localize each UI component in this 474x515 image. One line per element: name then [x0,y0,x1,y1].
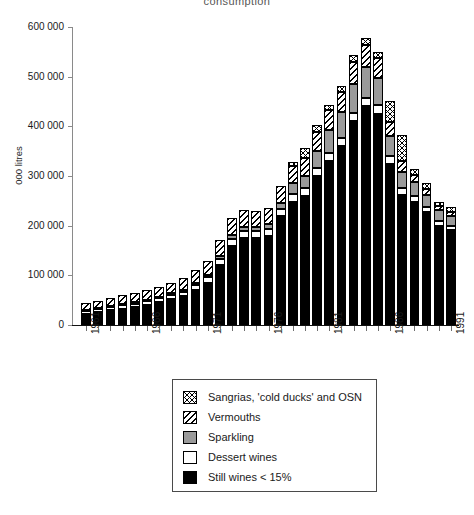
x-tick-mark [244,326,245,331]
bar-segment-sparkling [397,172,407,189]
bar-segment-sangria [385,101,395,123]
legend-label: Vermouths [208,411,261,423]
x-tick-mark [293,326,294,331]
bar-segment-dessert [203,277,213,282]
bar-segment-sparkling [239,227,249,231]
bar-segment-sparkling [373,78,383,106]
bar-segment-vermouth [203,261,213,275]
bar-segment-still [422,212,432,325]
bar-1974 [239,210,249,325]
bar-segment-sparkling [276,203,286,209]
legend-item-sangria[interactable]: Sangrias, 'cold ducks' and OSN [183,389,362,405]
bar-1989 [422,183,432,325]
legend-swatch-sparkling-icon [183,431,197,444]
bar-1970 [191,270,201,325]
bar-segment-sangria [337,86,347,92]
bar-segment-vermouth [312,132,322,151]
bar-segment-sparkling [312,151,322,168]
bar-segment-vermouth [154,287,164,297]
bar-segment-vermouth [361,45,371,67]
bar-segment-vermouth [130,293,140,302]
bar-1991 [446,207,456,325]
bar-segment-dessert [385,156,395,163]
legend-item-still[interactable]: Still wines < 15% [183,469,291,485]
bar-1976 [264,208,274,325]
bar-segment-still [361,106,371,325]
bar-segment-vermouth [385,122,395,136]
bar-segment-still [385,164,395,325]
bar-1965 [130,293,140,325]
bar-segment-still [106,310,116,325]
bar-segment-still [179,296,189,325]
bar-segment-still [191,290,201,325]
x-tick-label: 1966 [151,312,162,334]
x-tick-mark [159,326,160,331]
bar-segment-sparkling [385,136,395,156]
legend-label: Sangrias, 'cold ducks' and OSN [208,391,362,403]
bar-segment-dessert [434,221,444,225]
bar-segment-sangria [422,183,432,189]
bar-segment-dessert [410,196,420,201]
bar-segment-still [276,216,286,325]
bar-segment-vermouth [264,208,274,224]
bar-segment-still [227,246,237,325]
bar-segment-dessert [312,168,322,176]
bar-segment-dessert [276,209,286,216]
bar-segment-dessert [251,231,261,238]
legend-swatch-vermouth-icon [183,411,197,424]
x-tick-mark [232,326,233,331]
bar-1963 [106,298,116,325]
bar-segment-dessert [239,231,249,238]
bar-segment-vermouth [337,92,347,113]
x-tick-mark [414,326,415,331]
bar-segment-vermouth [373,58,383,78]
legend-item-dessert[interactable]: Dessert wines [183,449,277,465]
bar-segment-dessert [118,305,128,308]
bar-segment-vermouth [300,158,310,176]
bar-segment-still [337,146,347,325]
bar-segment-vermouth [434,206,444,210]
bar-segment-vermouth [179,278,189,290]
bar-segment-still [166,299,176,325]
legend-item-vermouth[interactable]: Vermouths [183,409,261,425]
bar-segment-still [251,238,261,325]
bar-segment-sparkling [264,224,274,228]
bar-1977 [276,186,286,325]
bar-segment-still [130,307,140,325]
y-tick-mark [68,126,73,127]
x-tick-mark [98,326,99,331]
bar-segment-vermouth [142,290,152,299]
bar-1986 [385,101,395,325]
legend-item-sparkling[interactable]: Sparkling [183,429,254,445]
bar-1969 [179,278,189,325]
bar-segment-dessert [300,188,310,195]
x-tick-mark [439,326,440,331]
bar-segment-sparkling [410,182,420,196]
bar-segment-sparkling [337,112,347,138]
plot-area [80,27,457,325]
bar-1982 [337,86,347,325]
bar-1988 [410,169,420,325]
bar-1975 [251,211,261,325]
x-tick-mark [451,326,452,331]
bar-segment-sparkling [191,283,201,285]
bar-segment-vermouth [276,186,286,203]
bar-1973 [227,218,237,325]
bar-1981 [324,104,334,325]
bar-segment-vermouth [324,110,334,130]
y-tick-label: 300 000 [8,171,64,181]
x-tick-mark [317,326,318,331]
bar-segment-vermouth [215,240,225,256]
legend-label: Dessert wines [208,451,277,463]
bar-segment-dessert [142,301,152,305]
bar-segment-still [373,114,383,325]
bar-segment-vermouth [106,298,116,306]
chart-container: consumption 000 litres 0100 000200 00030… [0,0,474,515]
bar-segment-dessert [215,259,225,265]
bar-segment-dessert [179,292,189,296]
x-tick-label: 1991 [455,312,466,334]
bar-segment-sparkling [288,183,298,194]
y-tick-mark [68,176,73,177]
bar-segment-vermouth [239,210,249,227]
bar-segment-dessert [324,153,334,161]
